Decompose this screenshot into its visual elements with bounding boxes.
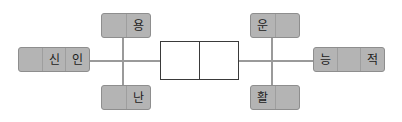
right-node[interactable]: 능 적 [313,47,385,72]
bottom-left-node[interactable]: 난 [101,85,151,110]
top-right-node-cell-2 [275,14,300,37]
center-node[interactable] [160,41,239,80]
top-right-node-cell-1: 운 [251,14,275,37]
center-node-cell-2 [199,42,238,79]
center-node-cell-1 [161,42,199,79]
bottom-left-node-cell-1 [102,86,126,109]
bottom-right-node-cell-2 [275,86,300,109]
left-node-cell-1 [19,48,42,71]
top-left-node-cell-1 [102,14,126,37]
bottom-left-node-cell-2: 난 [126,86,151,109]
diagram-canvas: 신 인 용 난 운 활 능 적 [0,0,402,122]
right-node-cell-3: 적 [360,48,384,71]
bottom-right-node-cell-1: 활 [251,86,275,109]
left-node[interactable]: 신 인 [18,47,90,72]
bottom-right-node[interactable]: 활 [250,85,300,110]
top-right-node[interactable]: 운 [250,13,300,38]
right-node-cell-1: 능 [314,48,337,71]
left-node-cell-3: 인 [65,48,89,71]
left-node-cell-2: 신 [42,48,66,71]
top-left-node[interactable]: 용 [101,13,151,38]
top-left-node-cell-2: 용 [126,14,151,37]
right-node-cell-2 [337,48,361,71]
